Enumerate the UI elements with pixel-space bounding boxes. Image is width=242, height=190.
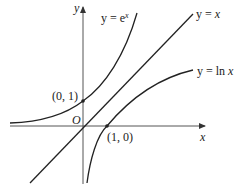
label-exp: y = ex: [101, 11, 129, 25]
origin-label: O: [72, 113, 81, 127]
curve-exp: [10, 13, 137, 123]
y-axis-label: y: [73, 1, 80, 15]
x-axis-label: x: [199, 130, 206, 144]
point-0-1: [81, 99, 85, 103]
label-identity: y = x: [196, 7, 221, 21]
point-label-1-0: (1, 0): [107, 130, 133, 144]
label-log: y = ln x: [197, 64, 234, 78]
point-1-0: [105, 124, 109, 128]
function-graph: y x O y = ex y = x y = ln x (0, 1) (1, 0…: [0, 0, 242, 190]
point-label-0-1: (0, 1): [52, 89, 78, 103]
